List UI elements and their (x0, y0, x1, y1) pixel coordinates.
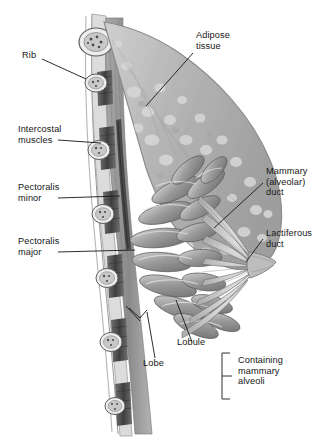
breast-anatomy-figure: Rib Adipose tissue Intercostal muscles P… (0, 0, 336, 439)
alveoli-bracket (222, 353, 232, 399)
label-pectoralis-minor: Pectoralis minor (18, 182, 59, 203)
label-adipose-tissue: Adipose tissue (196, 30, 230, 51)
label-containing-mammary-alveoli: Containing mammary alveoli (238, 355, 283, 387)
label-lactiferous-duct: Lactiferous duct (266, 228, 312, 249)
label-lobe: Lobe (143, 358, 164, 369)
label-rib: Rib (22, 50, 36, 61)
label-intercostal-muscles: Intercostal muscles (18, 124, 62, 145)
anatomy-illustration (0, 0, 336, 439)
label-lobule: Lobule (177, 337, 205, 348)
label-mammary-duct: Mammary (alveolar) duct (266, 166, 308, 198)
leader-rib (42, 59, 86, 79)
leader-lobe (147, 312, 155, 358)
label-pectoralis-major: Pectoralis major (18, 236, 59, 257)
